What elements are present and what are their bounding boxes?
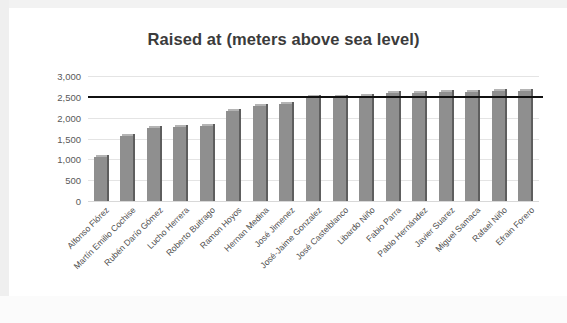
gridline: [88, 76, 539, 77]
bar-side-face: [478, 90, 480, 201]
bar-side-face: [505, 89, 507, 201]
slide-border-left: [0, 0, 9, 297]
bar[interactable]: [226, 111, 239, 201]
bar[interactable]: [200, 126, 213, 201]
bar[interactable]: [253, 106, 266, 201]
bar-side-face: [133, 134, 135, 201]
y-axis: 3,0002,5002,0001,5001,0005000: [19, 76, 81, 201]
y-axis-tick-label: 3,000: [21, 71, 81, 82]
bar[interactable]: [333, 97, 346, 201]
bar[interactable]: [492, 91, 505, 201]
threshold-line: [88, 96, 543, 98]
bar-side-face: [346, 95, 348, 201]
bar-side-face: [292, 102, 294, 202]
bar-side-face: [160, 126, 162, 201]
bar-side-face: [266, 104, 268, 201]
bar[interactable]: [518, 91, 531, 201]
x-axis: Alfonso FlórezMartín Emilio CochiseRubén…: [9, 201, 558, 296]
bar-side-face: [452, 90, 454, 201]
bar[interactable]: [94, 157, 107, 201]
plot-area: [88, 76, 539, 201]
bar[interactable]: [147, 128, 160, 201]
bar[interactable]: [120, 136, 133, 201]
bar[interactable]: [306, 97, 319, 201]
slide-border-bottom: [0, 296, 567, 323]
bar[interactable]: [359, 96, 372, 201]
bar-side-face: [531, 89, 533, 201]
chart-title: Raised at (meters above sea level): [9, 30, 558, 49]
y-axis-tick-label: 1,500: [21, 133, 81, 144]
bar-side-face: [372, 94, 374, 201]
bar-side-face: [107, 155, 109, 201]
bar-side-face: [186, 125, 188, 201]
slide-border-top: [0, 0, 567, 8]
bar-side-face: [399, 91, 401, 201]
bar-side-face: [239, 109, 241, 201]
bar-side-face: [425, 91, 427, 201]
bar[interactable]: [386, 93, 399, 201]
bar-side-face: [319, 95, 321, 201]
bar[interactable]: [279, 104, 292, 202]
chart-container[interactable]: Raised at (meters above sea level) 3,000…: [9, 8, 558, 296]
bar[interactable]: [412, 93, 425, 201]
bar-side-face: [213, 124, 215, 201]
y-axis-tick-label: 2,000: [21, 112, 81, 123]
bar[interactable]: [439, 92, 452, 201]
bar[interactable]: [173, 127, 186, 201]
bar[interactable]: [465, 92, 478, 201]
y-axis-tick-label: 500: [21, 175, 81, 186]
y-axis-tick-label: 1,000: [21, 154, 81, 165]
y-axis-tick-label: 2,500: [21, 91, 81, 102]
slide-frame: Raised at (meters above sea level) 3,000…: [0, 0, 567, 323]
